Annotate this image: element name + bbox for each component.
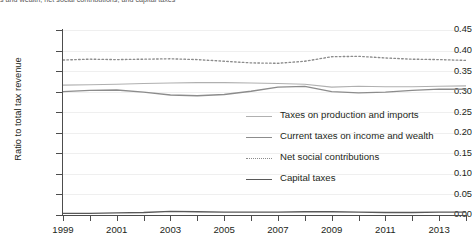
legend-item[interactable]: Net social contributions <box>246 149 472 170</box>
legend-swatch-icon <box>246 158 272 159</box>
series-line-0 <box>63 83 466 88</box>
legend-item[interactable]: Current taxes on income and wealth <box>246 128 472 149</box>
x-tick-mark <box>385 216 386 221</box>
chart-legend: Taxes on production and importsCurrent t… <box>246 107 472 191</box>
x-tick-mark <box>412 216 413 221</box>
x-tick-mark <box>278 216 279 221</box>
x-tick-mark <box>170 216 171 221</box>
x-tick-label: 2001 <box>95 224 139 235</box>
x-tick-label: 2003 <box>148 224 192 235</box>
legend-label: Current taxes on income and wealth <box>280 130 434 142</box>
x-tick-mark <box>332 216 333 221</box>
chart-container: s and wealth, net social contributions, … <box>0 0 472 243</box>
legend-label: Taxes on production and imports <box>280 109 419 121</box>
x-tick-mark <box>63 216 64 221</box>
series-line-3 <box>63 211 466 213</box>
x-tick-mark <box>90 216 91 221</box>
x-axis-line <box>62 215 467 216</box>
y-axis-title: Ratio to total tax revenue <box>13 19 23 199</box>
figure-caption: s and wealth, net social contributions, … <box>0 0 472 5</box>
x-tick-mark <box>197 216 198 221</box>
legend-swatch-icon <box>246 137 272 138</box>
x-tick-mark <box>251 216 252 221</box>
legend-item[interactable]: Taxes on production and imports <box>246 107 472 128</box>
series-line-1 <box>63 86 466 95</box>
x-tick-label: 2011 <box>363 224 407 235</box>
series-line-2 <box>63 56 466 63</box>
x-tick-mark <box>439 216 440 221</box>
x-tick-label: 2007 <box>256 224 300 235</box>
legend-item[interactable]: Capital taxes <box>246 170 472 191</box>
x-tick-mark <box>117 216 118 221</box>
x-tick-label: 2005 <box>202 224 246 235</box>
x-tick-mark <box>305 216 306 221</box>
legend-label: Capital taxes <box>280 172 335 184</box>
x-tick-mark <box>224 216 225 221</box>
x-tick-label: 1999 <box>41 224 85 235</box>
x-tick-mark <box>359 216 360 221</box>
legend-swatch-icon <box>246 116 272 117</box>
x-tick-label: 2009 <box>310 224 354 235</box>
x-tick-mark <box>466 216 467 221</box>
legend-label: Net social contributions <box>280 151 379 163</box>
x-tick-label: 2013 <box>417 224 461 235</box>
legend-swatch-icon <box>246 179 272 180</box>
x-tick-mark <box>144 216 145 221</box>
